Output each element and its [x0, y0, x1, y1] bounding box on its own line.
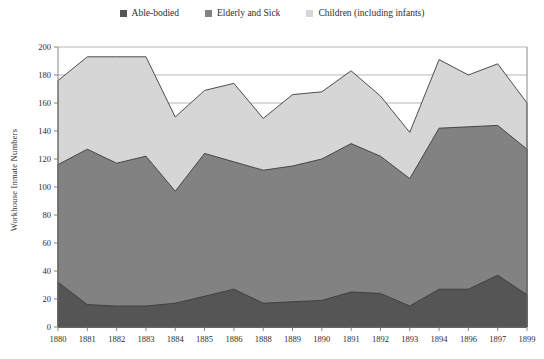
- svg-text:0: 0: [47, 322, 51, 332]
- svg-text:1883: 1883: [137, 334, 154, 344]
- svg-text:1882: 1882: [108, 334, 125, 344]
- svg-text:1891: 1891: [343, 334, 360, 344]
- svg-text:160: 160: [38, 98, 51, 108]
- svg-text:1888: 1888: [255, 334, 272, 344]
- svg-text:60: 60: [43, 238, 52, 248]
- svg-text:40: 40: [43, 266, 52, 276]
- svg-text:80: 80: [43, 210, 52, 220]
- svg-text:200: 200: [38, 42, 51, 52]
- svg-text:1881: 1881: [79, 334, 96, 344]
- svg-text:1885: 1885: [196, 334, 213, 344]
- svg-text:1880: 1880: [50, 334, 67, 344]
- y-axis-ticks: 020406080100120140160180200: [38, 42, 58, 332]
- svg-text:1896: 1896: [460, 334, 477, 344]
- x-axis-ticks: 1880188118821883188418851886188818891890…: [50, 327, 536, 344]
- svg-text:1889: 1889: [284, 334, 301, 344]
- svg-text:1899: 1899: [519, 334, 536, 344]
- svg-text:1884: 1884: [167, 334, 185, 344]
- plot-area: 020406080100120140160180200 188018811882…: [0, 0, 544, 359]
- svg-text:20: 20: [43, 294, 52, 304]
- svg-text:140: 140: [38, 126, 51, 136]
- svg-text:100: 100: [38, 182, 51, 192]
- svg-text:1894: 1894: [431, 334, 449, 344]
- svg-text:1892: 1892: [372, 334, 389, 344]
- stacked-area-chart: Able-bodied Elderly and Sick Children (i…: [0, 0, 544, 359]
- plot-svg: 020406080100120140160180200 188018811882…: [0, 0, 544, 359]
- svg-text:1886: 1886: [225, 334, 242, 344]
- svg-text:1893: 1893: [401, 334, 418, 344]
- svg-text:1890: 1890: [313, 334, 330, 344]
- svg-text:1897: 1897: [489, 334, 506, 344]
- svg-text:120: 120: [38, 154, 51, 164]
- svg-text:180: 180: [38, 70, 51, 80]
- series-areas: [58, 57, 527, 327]
